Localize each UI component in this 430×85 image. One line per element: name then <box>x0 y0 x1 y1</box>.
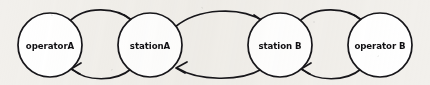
edge-path-above <box>69 10 133 22</box>
node-label-operatorA: operatorA <box>26 41 75 51</box>
edge-stationA-to-stationB <box>175 11 264 27</box>
node-label-stationA: stationA <box>130 41 171 51</box>
edge-stationA-to-operatorA <box>71 63 131 79</box>
node-operatorA[interactable]: operatorA <box>18 13 82 77</box>
edge-path-below <box>72 69 131 79</box>
diagram-canvas: operatorA stationA station B operator B <box>0 0 430 85</box>
edge-path-above <box>175 11 263 27</box>
edge-path-below <box>302 69 361 79</box>
node-operatorB[interactable]: operator B <box>348 13 412 77</box>
edge-operatorA-to-stationA <box>69 10 134 26</box>
edge-stationB-to-operatorB <box>299 10 364 26</box>
state-transition-diagram: operatorA stationA station B operator B <box>0 0 430 85</box>
node-label-stationB: station B <box>258 41 301 51</box>
node-stationB[interactable]: station B <box>248 13 312 77</box>
edge-operatorB-to-stationB <box>301 63 361 79</box>
node-label-operatorB: operator B <box>354 41 405 51</box>
edge-stationB-to-stationA <box>176 62 262 78</box>
edge-path-below <box>177 68 262 78</box>
edge-path-above <box>299 10 363 22</box>
node-stationA[interactable]: stationA <box>118 13 182 77</box>
